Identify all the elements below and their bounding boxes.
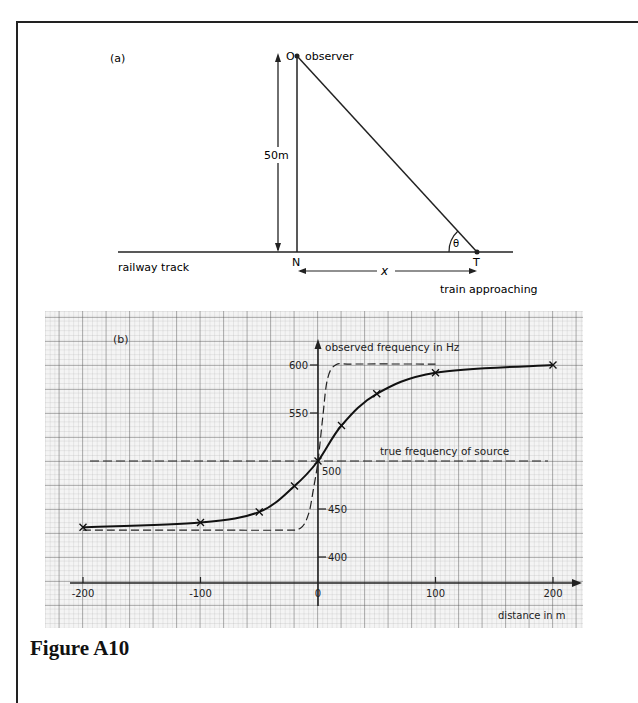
y-tick-label: 600: [289, 360, 308, 371]
figure-caption: Figure A10: [30, 636, 129, 661]
true-frequency-label: true frequency of source: [380, 445, 509, 457]
y-tick-label: 400: [328, 552, 347, 563]
graph-paper-major-grid: [45, 311, 583, 628]
x-axis-label: distance in m: [498, 610, 566, 621]
x-tick-label: -100: [189, 588, 212, 599]
x-tick-label: 200: [543, 588, 562, 599]
x-tick-label: 0: [315, 588, 321, 599]
panel-label-b: (b): [113, 333, 129, 346]
x-tick-label: 100: [426, 588, 445, 599]
y-axis-label: observed frequency in Hz: [325, 341, 460, 353]
x-tick-label: -200: [72, 588, 95, 599]
y-tick-label: 450: [328, 504, 347, 515]
y-tick-label: 550: [289, 408, 308, 419]
y-tick-label: 500: [322, 466, 341, 477]
